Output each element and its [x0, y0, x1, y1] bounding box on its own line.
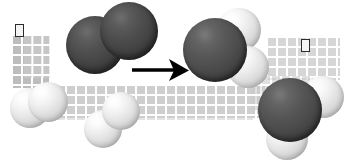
reaction-arrow: [131, 57, 191, 83]
oxygen-atom: [258, 78, 322, 142]
oxygen-atom: [183, 18, 247, 82]
marker-left[interactable]: [15, 24, 24, 37]
molecular-reaction-figure: 2 H2 + O2 -> 2 H2O: [0, 0, 346, 164]
hydrogen-atom: [102, 92, 140, 130]
marker-right[interactable]: [301, 39, 310, 52]
grid-band-left-column-faint: [24, 36, 50, 78]
oxygen-atom: [100, 2, 158, 60]
water-molecule-lower: [258, 72, 346, 160]
hydrogen-atom: [28, 82, 68, 122]
hydrogen-molecule-left: [10, 82, 68, 128]
hydrogen-molecule-center: [84, 92, 140, 148]
reaction-arrow-icon: [131, 57, 191, 83]
